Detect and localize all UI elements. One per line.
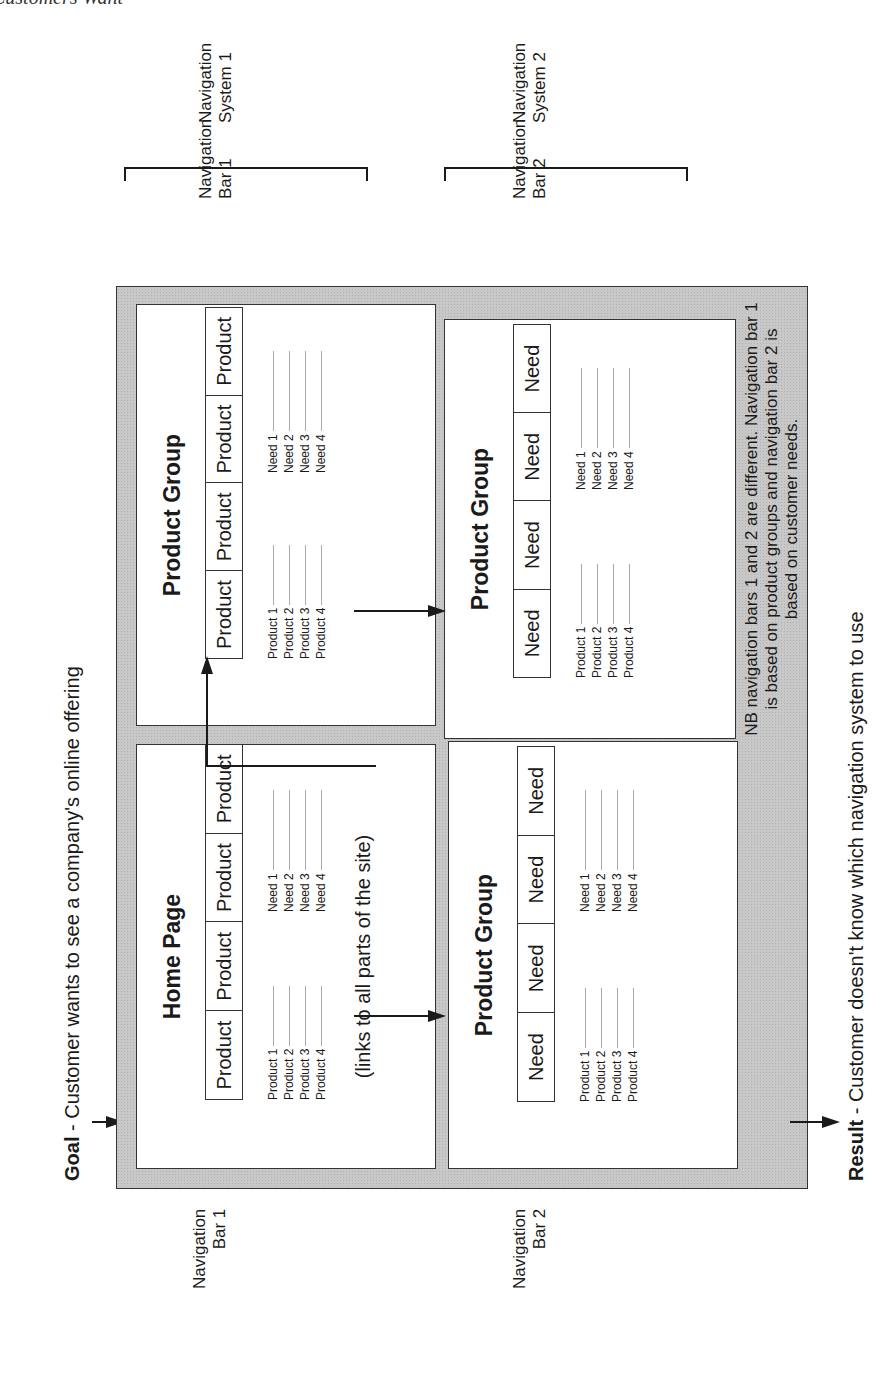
product-links: Product 1 Product 2 Product 3 Product 4 <box>265 986 329 1100</box>
link[interactable]: Need 2 <box>281 434 297 473</box>
arrow-home-down-line <box>354 1015 434 1017</box>
link[interactable]: Product 3 <box>609 1051 625 1102</box>
nav-item[interactable]: Product <box>206 570 242 658</box>
nav-item[interactable]: Need <box>514 412 550 500</box>
link[interactable]: Product 3 <box>297 608 313 659</box>
note-line: NB navigation bars 1 and 2 are different… <box>742 279 762 759</box>
nav-item[interactable]: Product <box>206 922 242 1011</box>
link[interactable]: Product 4 <box>625 1051 641 1102</box>
link[interactable]: Need 3 <box>605 451 621 490</box>
nav-item[interactable]: Need <box>514 589 550 677</box>
link[interactable]: Need 4 <box>313 434 329 473</box>
arrow-home-to-group-line <box>206 667 208 767</box>
arrow-right-icon <box>201 656 213 674</box>
panel-title: Product Group <box>471 742 498 1168</box>
link[interactable]: Need 3 <box>297 873 313 912</box>
nav-item[interactable]: Product <box>206 833 242 922</box>
link[interactable]: Need 1 <box>577 873 593 912</box>
nav-item[interactable]: Need <box>514 501 550 589</box>
nav-item[interactable]: Product <box>206 395 242 483</box>
panel-home-page: Home Page Product Product Product Produc… <box>136 744 436 1169</box>
link[interactable]: Need 2 <box>593 873 609 912</box>
nav-bar-1: Product Product Product Product <box>205 744 243 1100</box>
arrow-down-icon <box>428 605 446 617</box>
result-arrow-line <box>790 1121 826 1123</box>
nav-system-2-label: Navigation System 2 <box>510 43 550 123</box>
nav-bar-2: Need Need Need Need <box>517 746 555 1102</box>
nav-bar-2: Need Need Need Need <box>513 324 551 678</box>
nav-bar-2-side-label: Navigation Bar 2 <box>510 1209 550 1289</box>
nav-item[interactable]: Need <box>518 747 554 835</box>
panel-product-group-2: Product Group Need Need Need Need Produc… <box>448 741 738 1169</box>
link[interactable]: Product 2 <box>281 608 297 659</box>
arrow-group-down-line <box>354 610 434 612</box>
nb-note: NB navigation bars 1 and 2 are different… <box>742 279 802 759</box>
link[interactable]: Product 1 <box>577 1051 593 1102</box>
nav-item[interactable]: Need <box>518 924 554 1013</box>
link[interactable]: Product 4 <box>621 627 637 678</box>
nav-item[interactable]: Need <box>518 1012 554 1101</box>
link[interactable]: Product 2 <box>593 1051 609 1102</box>
link[interactable]: Need 4 <box>625 873 641 912</box>
result-arrow-icon <box>822 1116 840 1128</box>
need-links: Need 1 Need 2 Need 3 Need 4 <box>265 790 329 912</box>
panel-title: Product Group <box>159 305 186 725</box>
nav-item[interactable]: Product <box>206 308 242 395</box>
nav-bar-2-label: Navigation Bar 2 <box>510 119 550 199</box>
nav-item[interactable]: Product <box>206 483 242 571</box>
link[interactable]: Need 3 <box>297 434 313 473</box>
arrow-down-icon <box>428 1010 446 1022</box>
link[interactable]: Product 1 <box>573 627 589 678</box>
result-label: Result <box>845 1120 867 1181</box>
product-links: Product 1 Product 2 Product 3 Product 4 <box>577 988 641 1102</box>
link[interactable]: Need 2 <box>281 873 297 912</box>
nav-system-2-bracket <box>444 167 688 169</box>
link[interactable]: Need 3 <box>609 873 625 912</box>
nav-bar-1: Product Product Product Product <box>205 307 243 659</box>
need-links: Need 1 Need 2 Need 3 Need 4 <box>573 368 637 490</box>
home-caption: (links to all parts of the site) <box>353 745 373 1168</box>
goal-label: Goal <box>61 1137 83 1181</box>
nav-item[interactable]: Product <box>206 1010 242 1099</box>
link[interactable]: Need 4 <box>621 451 637 490</box>
link[interactable]: Product 4 <box>313 608 329 659</box>
note-line: is based on product groups and navigatio… <box>762 279 782 759</box>
link[interactable]: Need 1 <box>573 451 589 490</box>
goal-description: - Customer wants to see a company's onli… <box>61 666 83 1136</box>
panel-product-group-3: Product Group Need Need Need Need Produc… <box>444 319 736 739</box>
result-text: Result - Customer doesn't know which nav… <box>846 611 866 1181</box>
panel-title: Product Group <box>467 320 494 738</box>
link[interactable]: Product 2 <box>589 627 605 678</box>
goal-text: Goal - Customer wants to see a company's… <box>62 666 82 1181</box>
link[interactable]: Product 4 <box>313 1049 329 1100</box>
link[interactable]: Product 1 <box>265 1049 281 1100</box>
panel-title: Home Page <box>159 745 186 1168</box>
nav-system-1-label: Navigation System 1 <box>196 43 236 123</box>
link[interactable]: Product 1 <box>265 608 281 659</box>
product-links: Product 1 Product 2 Product 3 Product 4 <box>265 545 329 659</box>
link[interactable]: Product 3 <box>297 1049 313 1100</box>
nav-system-1-bracket <box>124 167 368 169</box>
nav-item[interactable]: Need <box>514 325 550 412</box>
note-line: based on customer needs. <box>782 279 802 759</box>
diagram-canvas: Goal - Customer wants to see a company's… <box>0 0 884 1399</box>
product-links: Product 1 Product 2 Product 3 Product 4 <box>573 564 637 678</box>
need-links: Need 1 Need 2 Need 3 Need 4 <box>265 351 329 473</box>
link[interactable]: Need 4 <box>313 873 329 912</box>
nav-bar-1-label: Navigation Bar 1 <box>196 119 236 199</box>
link[interactable]: Product 2 <box>281 1049 297 1100</box>
nav-item[interactable]: Product <box>206 745 242 833</box>
link[interactable]: Need 2 <box>589 451 605 490</box>
link[interactable]: Need 1 <box>265 434 281 473</box>
link[interactable]: Product 3 <box>605 627 621 678</box>
arrow-home-to-group-line <box>206 765 376 767</box>
nav-bar-1-side-label: Navigation Bar 1 <box>190 1209 230 1289</box>
panel-product-group-1: Product Group Product Product Product Pr… <box>136 304 436 726</box>
result-description: - Customer doesn't know which navigation… <box>845 611 867 1120</box>
need-links: Need 1 Need 2 Need 3 Need 4 <box>577 790 641 912</box>
link[interactable]: Need 1 <box>265 873 281 912</box>
nav-item[interactable]: Need <box>518 835 554 924</box>
